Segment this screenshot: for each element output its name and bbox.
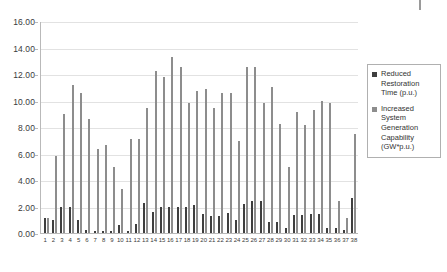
bar-group[interactable] [275, 22, 283, 233]
bar-series-1[interactable] [47, 218, 49, 233]
bar-series-1[interactable] [329, 103, 331, 234]
legend-entry[interactable]: Increased System Generation Capability (… [372, 104, 436, 152]
bar-series-1[interactable] [313, 110, 315, 233]
bar-series-1[interactable] [105, 145, 107, 233]
bar-series-1[interactable] [230, 93, 232, 233]
bar-series-0[interactable] [251, 201, 253, 233]
bar-series-0[interactable] [193, 205, 195, 233]
bar-group[interactable] [341, 22, 349, 233]
bar-group[interactable] [350, 22, 358, 233]
bar-group[interactable] [42, 22, 50, 233]
bar-group[interactable] [142, 22, 150, 233]
bar-group[interactable] [200, 22, 208, 233]
bar-group[interactable] [325, 22, 333, 233]
bar-series-0[interactable] [110, 231, 112, 233]
bar-group[interactable] [150, 22, 158, 233]
bar-series-0[interactable] [177, 207, 179, 234]
bar-group[interactable] [266, 22, 274, 233]
bar-series-1[interactable] [188, 103, 190, 233]
bar-series-0[interactable] [202, 214, 204, 233]
bar-series-1[interactable] [72, 85, 74, 233]
bar-group[interactable] [167, 22, 175, 233]
bar-series-0[interactable] [301, 215, 303, 233]
bar-group[interactable] [333, 22, 341, 233]
bar-series-0[interactable] [260, 201, 262, 233]
bar-series-1[interactable] [271, 87, 273, 233]
bar-group[interactable] [250, 22, 258, 233]
bar-group[interactable] [100, 22, 108, 233]
bar-series-1[interactable] [80, 93, 82, 233]
bar-group[interactable] [109, 22, 117, 233]
bar-series-0[interactable] [335, 228, 337, 233]
bar-group[interactable] [175, 22, 183, 233]
bar-series-1[interactable] [155, 71, 157, 233]
bar-series-1[interactable] [263, 103, 265, 234]
bar-group[interactable] [258, 22, 266, 233]
bar-series-0[interactable] [44, 218, 46, 233]
bar-series-1[interactable] [163, 77, 165, 233]
bar-series-1[interactable] [180, 67, 182, 233]
bar-group[interactable] [117, 22, 125, 233]
bar-series-1[interactable] [55, 156, 57, 234]
bar-series-0[interactable] [102, 231, 104, 233]
bar-series-0[interactable] [227, 213, 229, 233]
bar-series-0[interactable] [285, 228, 287, 233]
bar-series-1[interactable] [338, 201, 340, 233]
bar-series-1[interactable] [296, 112, 298, 233]
bar-series-1[interactable] [171, 57, 173, 233]
bar-series-1[interactable] [146, 108, 148, 233]
bar-group[interactable] [283, 22, 291, 233]
bar-group[interactable] [158, 22, 166, 233]
legend-entry[interactable]: Reduced Restoration Time (p.u.) [372, 69, 436, 98]
bar-group[interactable] [84, 22, 92, 233]
bar-group[interactable] [217, 22, 225, 233]
bar-group[interactable] [316, 22, 324, 233]
bar-group[interactable] [125, 22, 133, 233]
bar-series-0[interactable] [160, 207, 162, 234]
bar-series-0[interactable] [276, 222, 278, 233]
bar-series-1[interactable] [254, 67, 256, 233]
bar-series-0[interactable] [343, 230, 345, 233]
bar-series-0[interactable] [77, 220, 79, 233]
bar-series-0[interactable] [243, 204, 245, 233]
bar-group[interactable] [59, 22, 67, 233]
bar-series-0[interactable] [318, 214, 320, 233]
bar-series-1[interactable] [246, 67, 248, 233]
bar-series-0[interactable] [85, 230, 87, 233]
bar-series-0[interactable] [351, 198, 353, 233]
bar-series-1[interactable] [130, 139, 132, 233]
bar-group[interactable] [92, 22, 100, 233]
bar-series-0[interactable] [268, 222, 270, 233]
bar-series-0[interactable] [94, 231, 96, 233]
bar-group[interactable] [233, 22, 241, 233]
bar-series-0[interactable] [69, 207, 71, 234]
bar-series-1[interactable] [88, 119, 90, 233]
bar-series-1[interactable] [304, 125, 306, 233]
bar-series-1[interactable] [221, 93, 223, 233]
bar-group[interactable] [242, 22, 250, 233]
bar-group[interactable] [192, 22, 200, 233]
bar-series-1[interactable] [113, 167, 115, 233]
bar-group[interactable] [291, 22, 299, 233]
bar-series-0[interactable] [326, 228, 328, 233]
bar-series-0[interactable] [143, 203, 145, 233]
bar-series-1[interactable] [346, 218, 348, 233]
bar-series-1[interactable] [354, 134, 356, 233]
bar-series-0[interactable] [127, 231, 129, 233]
bar-series-0[interactable] [152, 212, 154, 233]
bar-group[interactable] [300, 22, 308, 233]
bar-series-1[interactable] [196, 91, 198, 233]
bar-series-1[interactable] [238, 141, 240, 233]
bar-series-0[interactable] [310, 214, 312, 233]
bar-series-1[interactable] [279, 124, 281, 233]
bar-group[interactable] [67, 22, 75, 233]
bar-series-0[interactable] [235, 220, 237, 233]
bar-series-1[interactable] [63, 114, 65, 233]
bar-group[interactable] [133, 22, 141, 233]
bar-group[interactable] [75, 22, 83, 233]
bar-group[interactable] [183, 22, 191, 233]
bar-group[interactable] [50, 22, 58, 233]
bar-series-0[interactable] [185, 207, 187, 234]
bar-series-1[interactable] [213, 108, 215, 233]
bar-group[interactable] [225, 22, 233, 233]
